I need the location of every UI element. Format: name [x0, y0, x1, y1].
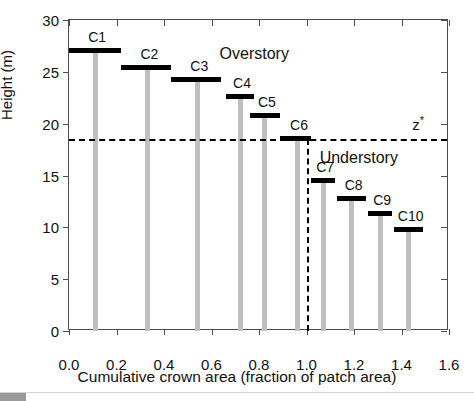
y-tick-right	[441, 72, 447, 73]
y-tick-right	[441, 227, 447, 228]
crown-bar	[171, 77, 221, 82]
z-star-superscript: *	[420, 114, 424, 126]
x-tick	[117, 329, 118, 335]
x-tick-top	[354, 20, 355, 26]
crown-stem	[93, 50, 98, 331]
x-tick	[259, 329, 260, 335]
y-tick-right	[441, 124, 447, 125]
y-tick-label: 20	[11, 115, 59, 132]
crown-bar	[337, 196, 366, 201]
x-tick-top	[259, 20, 260, 26]
crown-label-c4: C4	[233, 75, 251, 91]
crown-bar	[311, 178, 335, 183]
crown-bar	[69, 48, 121, 53]
y-tick	[63, 227, 69, 228]
x-axis-title: Cumulative crown area (fraction of patch…	[0, 368, 474, 386]
understory-label: Understory	[320, 149, 398, 167]
y-tick-label: 5	[11, 271, 59, 288]
y-tick-label: 15	[11, 167, 59, 184]
y-tick-label: 30	[11, 12, 59, 29]
x-tick-top	[402, 20, 403, 26]
y-tick-right	[441, 176, 447, 177]
x-tick	[402, 329, 403, 335]
y-tick	[63, 176, 69, 177]
bottom-strip	[0, 392, 474, 401]
crown-label-c10: C10	[398, 208, 424, 224]
x-tick-top	[164, 20, 165, 26]
crown-bar	[226, 94, 255, 99]
x-tick	[69, 329, 70, 335]
x-tick	[212, 329, 213, 335]
x-tick-top	[69, 20, 70, 26]
y-tick-label: 10	[11, 219, 59, 236]
figure-root: Height (m) 051015202530 C1C2C3C4C5C6C7C8…	[0, 0, 474, 401]
crown-label-c5: C5	[258, 94, 276, 110]
y-tick-right	[441, 20, 447, 21]
crown-stem	[378, 213, 383, 331]
crown-bar	[121, 65, 171, 70]
x-tick	[354, 329, 355, 335]
patch-area-line	[307, 139, 309, 331]
crown-bar	[250, 113, 281, 118]
x-tick	[164, 329, 165, 335]
crown-stem	[349, 198, 354, 331]
x-tick-top	[212, 20, 213, 26]
crown-label-c6: C6	[290, 117, 308, 133]
bottom-strip-marker	[0, 393, 26, 401]
crown-stem	[321, 180, 326, 331]
crown-label-c2: C2	[140, 46, 158, 62]
x-tick-top	[307, 20, 308, 26]
crown-stem	[195, 79, 200, 331]
y-axis-title: Height (m)	[0, 50, 15, 120]
x-tick-top	[117, 20, 118, 26]
crown-bar	[368, 211, 392, 216]
crown-bar	[394, 227, 423, 232]
z-star-label: z*	[412, 114, 424, 133]
y-tick-label: 25	[11, 63, 59, 80]
z-star-line	[69, 139, 447, 141]
crown-stem	[295, 138, 300, 331]
overstory-label: Overstory	[220, 45, 289, 63]
crown-stem	[406, 229, 411, 331]
crown-stem	[238, 96, 243, 331]
crown-label-c3: C3	[190, 58, 208, 74]
y-tick	[63, 124, 69, 125]
y-tick	[63, 72, 69, 73]
y-tick-label: 0	[11, 323, 59, 340]
crown-label-c8: C8	[345, 177, 363, 193]
plot-area: 051015202530 C1C2C3C4C5C6C7C8C9C10 Overs…	[68, 19, 448, 330]
crown-stem	[262, 115, 267, 331]
y-tick-right	[441, 331, 447, 332]
x-tick-top	[449, 20, 450, 26]
z-star-base: z	[412, 116, 420, 133]
y-tick	[63, 279, 69, 280]
y-tick-right	[441, 279, 447, 280]
crown-label-c1: C1	[88, 29, 106, 45]
crown-stem	[145, 67, 150, 331]
x-tick	[449, 329, 450, 335]
crown-label-c9: C9	[373, 192, 391, 208]
